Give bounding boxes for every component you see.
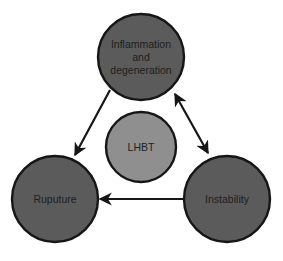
node-inflammation-degeneration: Inflammation and degeneration [98,14,184,100]
diagram-canvas: Inflammation and degeneration LHBT Ruput… [0,0,283,261]
arrow-inflammation-instability-bidirectional [175,94,208,153]
node-label: Instability [205,193,250,205]
node-label-line-1: Inflammation [111,38,171,50]
node-rupture: Ruputure [12,156,98,242]
node-label: LHBT [128,141,155,153]
arrow-inflammation-to-rupture [75,90,110,155]
node-label: Ruputure [33,193,76,205]
node-label-line-3: degeneration [110,64,171,76]
node-instability: Instability [184,156,270,242]
node-label-line-2: and [132,51,150,63]
node-lhbt: LHBT [106,112,176,182]
